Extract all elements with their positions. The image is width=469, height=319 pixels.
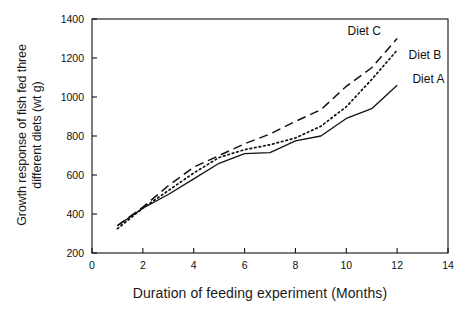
y-axis-tick-label: 1000 [61, 91, 85, 103]
y-axis-tick-label: 800 [66, 130, 84, 142]
x-axis-tick-label: 0 [89, 259, 95, 271]
plot-frame [92, 19, 448, 253]
y-axis-label-line-1: Growth response of fish fed three [15, 44, 30, 226]
y-axis-tick-label: 1200 [61, 52, 85, 64]
chart-figure: Growth response of fish fed three differ… [0, 0, 469, 319]
series-line-diet-a [117, 85, 397, 225]
x-axis-tick-label: 2 [140, 259, 146, 271]
x-axis-tick-label: 10 [340, 259, 352, 271]
x-axis-tick-label: 12 [391, 259, 403, 271]
y-axis-tick-label: 400 [66, 208, 84, 220]
y-axis-tick-label: 200 [66, 247, 84, 259]
series-label-diet-b: Diet B [409, 48, 442, 62]
series-label-diet-a: Diet A [412, 72, 444, 86]
x-axis-tick-label: 6 [242, 259, 248, 271]
series-label-diet-c: Diet C [348, 24, 382, 38]
y-axis-tick-label: 1400 [61, 13, 85, 25]
x-axis-tick-label: 4 [191, 259, 197, 271]
x-axis-label: Duration of feeding experiment (Months) [60, 285, 460, 301]
y-axis-tick-label: 600 [66, 169, 84, 181]
y-axis-label: Growth response of fish fed three differ… [0, 0, 60, 270]
x-axis-tick-label: 14 [442, 259, 454, 271]
plot-area: 20040060080010001200140002468101214Diet … [0, 0, 469, 319]
y-axis-label-line-2: different diets (wt g) [30, 44, 45, 226]
series-line-diet-b [117, 50, 397, 228]
x-axis-tick-label: 8 [293, 259, 299, 271]
